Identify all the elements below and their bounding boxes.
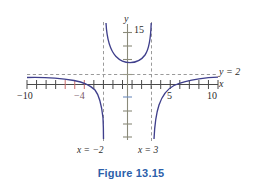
x-axis-ticks — [27, 80, 218, 89]
y-axis-label: y — [124, 13, 128, 24]
figure-caption: Figure 13.15 — [0, 167, 262, 179]
x-tick-label-10: 10 — [207, 90, 217, 101]
x-tick-label-minus4: −4 — [74, 90, 85, 101]
curve-middle-branch — [106, 23, 151, 63]
figure-container: y 15 x y = 2 −10 −4 5 10 x = −2 x = 3 Fi… — [0, 0, 262, 192]
x-tick-label-minus10: −10 — [17, 90, 33, 101]
y-tick-label-15: 15 — [134, 24, 144, 35]
graph-plot — [0, 0, 262, 192]
x-axis-label: x — [219, 78, 223, 89]
horizontal-asymptote-label: y = 2 — [219, 66, 240, 77]
x-tick-label-5: 5 — [167, 90, 172, 101]
vertical-asymptote-right-label: x = 3 — [138, 145, 158, 155]
vertical-asymptote-left-label: x = −2 — [77, 145, 104, 155]
